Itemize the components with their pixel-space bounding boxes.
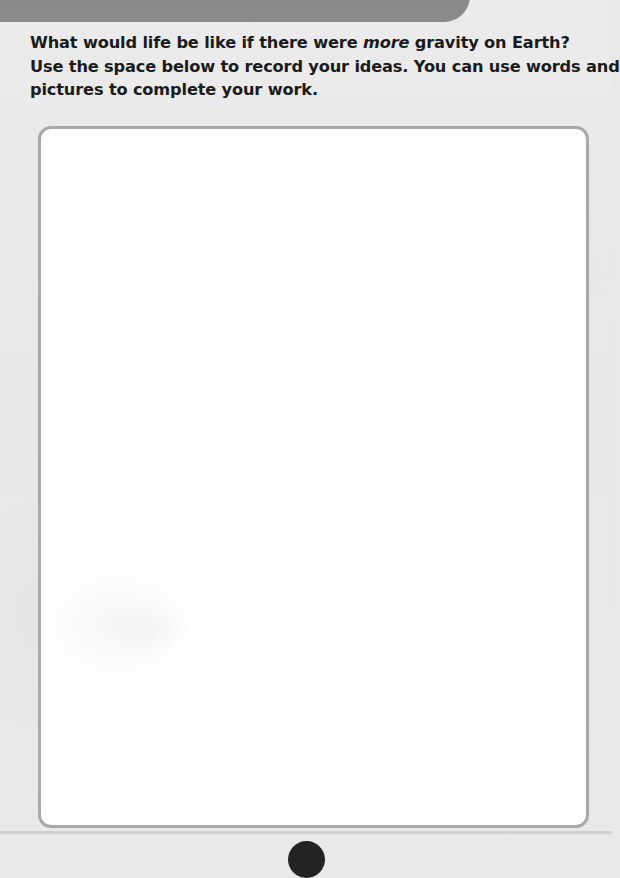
prompt-emphasis-more: more bbox=[363, 33, 409, 52]
footer-divider bbox=[0, 831, 612, 834]
prompt-line-1: What would life be like if there were mo… bbox=[30, 31, 592, 55]
prompt-line-1-part-1: What would life be like if there were bbox=[30, 33, 363, 52]
scan-smudge bbox=[43, 569, 193, 679]
top-banner bbox=[0, 0, 470, 22]
prompt-text: What would life be like if there were mo… bbox=[30, 31, 592, 102]
page-number-badge bbox=[288, 841, 325, 878]
prompt-line-1-part-2: gravity on Earth? bbox=[409, 33, 569, 52]
response-answer-box[interactable] bbox=[38, 126, 589, 828]
prompt-line-2: Use the space below to record your ideas… bbox=[30, 55, 592, 79]
scan-smudge bbox=[101, 599, 191, 659]
prompt-line-3: pictures to complete your work. bbox=[30, 78, 592, 102]
